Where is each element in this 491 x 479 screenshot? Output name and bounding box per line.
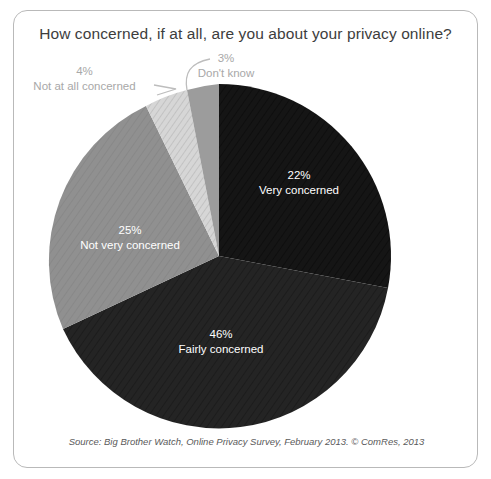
- pie-label-not-at-all-concerned: 4% Not at all concerned: [13, 64, 157, 93]
- pie-label-not-very-concerned: 25% Not very concerned: [50, 223, 210, 252]
- pie-label-dont-know: 3% Don't know: [171, 51, 281, 80]
- leader-line-not-at-all-concerned: [154, 85, 176, 95]
- pie-chart: 22% Very concerned 46% Fairly concerned …: [14, 11, 478, 468]
- chart-card: How concerned, if at all, are you about …: [13, 10, 478, 468]
- source-citation: Source: Big Brother Watch, Online Privac…: [14, 436, 478, 447]
- pie-label-very-concerned: 22% Very concerned: [229, 168, 369, 197]
- pie-label-fairly-concerned: 46% Fairly concerned: [141, 327, 301, 356]
